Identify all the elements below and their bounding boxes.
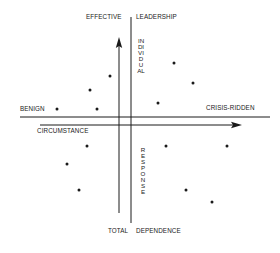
leadership-circumstance-diagram: EFFECTIVE LEADERSHIP BENIGN CRISIS-RIDDE… <box>0 0 280 253</box>
data-point-upper-left <box>89 89 92 92</box>
label-dependence: DEPENDENCE <box>136 228 181 234</box>
data-point-upper-right <box>157 102 160 105</box>
data-point-lower-left <box>66 163 69 166</box>
label-circumstance: CIRCUMSTANCE <box>37 128 88 134</box>
data-point-upper-right <box>173 62 176 65</box>
data-point-lower-right <box>211 201 214 204</box>
label-crisis-ridden: CRISIS-RIDDEN <box>206 105 255 111</box>
label-response-vertical: RESPONSE <box>139 147 147 195</box>
label-total: TOTAL <box>108 228 128 234</box>
data-point-lower-right <box>165 145 168 148</box>
data-point-lower-left <box>78 189 81 192</box>
label-individual-vertical: INDIVIDUAL <box>137 38 145 74</box>
label-effective: EFFECTIVE <box>86 14 122 20</box>
data-point-lower-right <box>185 189 188 192</box>
data-point-upper-right <box>192 82 195 85</box>
data-point-upper-left <box>96 108 99 111</box>
label-leadership: LEADERSHIP <box>136 14 177 20</box>
data-point-lower-right <box>226 145 229 148</box>
data-point-lower-left <box>86 145 89 148</box>
data-point-upper-left <box>56 108 59 111</box>
data-point-upper-left <box>109 75 112 78</box>
label-benign: BENIGN <box>20 106 45 112</box>
